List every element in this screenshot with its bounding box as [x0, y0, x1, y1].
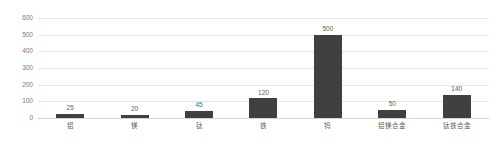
bar[interactable]	[249, 98, 277, 118]
y-tick-label: 400	[22, 48, 33, 55]
x-tick-label: 镁	[131, 122, 138, 129]
bar-group: 45	[167, 18, 231, 118]
bar[interactable]	[121, 115, 149, 118]
y-tick-label: 600	[22, 15, 33, 22]
bar[interactable]	[185, 111, 213, 119]
bar-group: 20	[102, 18, 166, 118]
x-tick-label: 钨	[324, 122, 331, 129]
bar-value-label: 500	[322, 26, 333, 33]
x-tick-label: 铝	[67, 122, 74, 129]
bar-group: 140	[425, 18, 489, 118]
x-tick-label: 铁	[260, 122, 267, 129]
bar[interactable]	[443, 95, 471, 118]
bar-value-label: 140	[451, 86, 462, 93]
y-tick-label: 100	[22, 98, 33, 105]
bar-group: 25	[38, 18, 102, 118]
bar-group: 500	[296, 18, 360, 118]
x-tick-label: 钛铁合金	[443, 122, 471, 129]
y-tick-label: 0	[29, 115, 33, 122]
bar[interactable]	[56, 114, 84, 118]
y-tick-label: 300	[22, 65, 33, 72]
bar-value-label: 120	[258, 90, 269, 97]
y-axis: 0 100 200 300 400 500 600	[0, 18, 33, 118]
plot-area: 25 20 45 120 500 50 140	[38, 18, 489, 118]
bar-chart: 0 100 200 300 400 500 600 25 20 45 120	[0, 0, 499, 147]
y-tick-label: 200	[22, 81, 33, 88]
x-axis: 铝 镁 钛 铁 钨 铝镁合金 钛铁合金	[38, 122, 489, 142]
y-tick-label: 500	[22, 31, 33, 38]
bar-value-label: 20	[131, 106, 138, 113]
bar-value-label: 45	[195, 102, 202, 109]
bar[interactable]	[378, 110, 406, 118]
bar-value-label: 25	[67, 105, 74, 112]
bar-group: 50	[360, 18, 424, 118]
x-tick-label: 钛	[196, 122, 203, 129]
x-tick-label: 铝镁合金	[378, 122, 406, 129]
bar[interactable]	[314, 35, 342, 118]
bar-value-label: 50	[389, 101, 396, 108]
axis-baseline	[38, 118, 489, 119]
bar-group: 120	[231, 18, 295, 118]
